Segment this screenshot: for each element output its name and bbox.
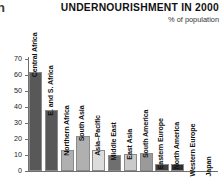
bar-category-label: South America — [142, 110, 150, 159]
bar-category-label: North America — [173, 122, 181, 169]
bar-category-label: Eastern Europe — [157, 118, 165, 169]
bar — [45, 110, 58, 171]
bar-category-label: Japan — [205, 156, 213, 176]
bar-category-label: Middle East — [110, 122, 118, 160]
bar-category-label: Asia–Pacific — [94, 115, 102, 156]
bar-category-label: Central Africa — [31, 32, 39, 77]
bar-category-label: Western Europe — [189, 124, 197, 177]
bars-layer: Central AfricaE. and S. AfricaNorthern A… — [0, 0, 221, 182]
bar-category-label: E. and S. Africa — [47, 66, 55, 116]
bar-category-label: East Asia — [126, 129, 134, 160]
bar-category-label: Northern Africa — [63, 105, 71, 155]
bar — [29, 72, 42, 171]
bar-category-label: South Asia — [78, 106, 86, 142]
chart-figure: n UNDERNOURISHMENT IN 2000 % of populati… — [0, 0, 221, 182]
plot-area: 010203040506070 Central AfricaE. and S. … — [0, 0, 221, 182]
